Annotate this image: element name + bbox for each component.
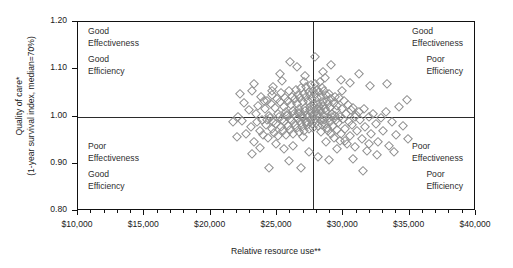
x-tick-mark-minor	[104, 210, 105, 213]
x-tick-mark-major	[143, 210, 144, 215]
x-tick-mark-minor	[183, 210, 184, 213]
quadrant-label-top-left-efficiency: Good Efficiency	[88, 54, 125, 77]
x-tick-label: $15,000	[128, 220, 159, 229]
scatter-point	[264, 163, 274, 173]
quadrant-tl-line3: Good	[88, 54, 125, 66]
x-tick-label: $30,000	[327, 220, 358, 229]
x-tick-mark-major	[276, 210, 277, 215]
x-tick-mark-minor	[329, 210, 330, 213]
x-axis-title: Relative resource use**	[77, 246, 475, 256]
y-axis-title-line1: Quality of care*	[14, 6, 26, 206]
x-tick-mark-minor	[196, 210, 197, 213]
y-tick-label: 1.00	[33, 111, 67, 120]
y-tick-label: 1.20	[33, 16, 67, 25]
scatter-point	[382, 79, 392, 89]
x-tick-mark-minor	[422, 210, 423, 213]
x-tick-mark-minor	[170, 210, 171, 213]
quadrant-tr-line2: Effectiveness	[412, 38, 463, 50]
plot-area: Good Effectiveness Good Efficiency Good …	[77, 21, 475, 210]
scatter-point	[402, 95, 412, 105]
scatter-point	[394, 102, 404, 112]
scatter-point	[371, 150, 381, 160]
scatter-point	[366, 129, 376, 139]
scatter-point	[324, 155, 334, 165]
quadrant-label-top-left-effectiveness: Good Effectiveness	[88, 26, 139, 49]
x-tick-mark-major	[342, 210, 343, 215]
scatter-point	[365, 81, 375, 91]
y-tick-label: 0.90	[33, 158, 67, 167]
x-tick-mark-minor	[90, 210, 91, 213]
quadrant-bl-line3: Good	[88, 169, 125, 181]
x-tick-mark-minor	[263, 210, 264, 213]
scatter-point	[298, 132, 308, 142]
x-tick-mark-minor	[249, 210, 250, 213]
x-tick-mark-minor	[356, 210, 357, 213]
x-tick-mark-minor	[303, 210, 304, 213]
x-tick-mark-major	[210, 210, 211, 215]
scatter-point	[296, 162, 306, 172]
x-tick-mark-minor	[236, 210, 237, 213]
x-tick-label: $25,000	[260, 220, 291, 229]
scatter-point	[348, 154, 358, 164]
scatter-chart-figure: Quality of care* (1-year survival index,…	[0, 0, 513, 268]
scatter-point	[358, 166, 368, 176]
quadrant-br-line1: Poor	[412, 141, 463, 153]
quadrant-tl-line4: Efficiency	[88, 66, 125, 78]
x-tick-mark-minor	[462, 210, 463, 213]
quadrant-tr-line1: Good	[412, 26, 463, 38]
x-tick-mark-minor	[157, 210, 158, 213]
x-tick-mark-major	[77, 210, 78, 215]
x-tick-mark-minor	[448, 210, 449, 213]
quadrant-br-line4: Efficiency	[426, 181, 463, 193]
x-tick-label: $10,000	[61, 220, 92, 229]
scatter-point	[237, 116, 247, 126]
scatter-point	[378, 126, 388, 136]
quadrant-label-top-right-efficiency: Poor Efficiency	[426, 54, 463, 77]
scatter-point	[288, 141, 298, 151]
x-tick-label: $20,000	[194, 220, 225, 229]
scatter-point	[387, 117, 397, 127]
x-tick-mark-minor	[316, 210, 317, 213]
quadrant-tr-line4: Efficiency	[426, 66, 463, 78]
y-tick-label: 1.10	[33, 63, 67, 72]
quadrant-bl-line1: Poor	[88, 141, 139, 153]
x-tick-mark-minor	[130, 210, 131, 213]
quadrant-label-bottom-left-efficiency: Good Efficiency	[88, 169, 125, 192]
quadrant-br-line2: Effectiveness	[412, 153, 463, 165]
scatter-point	[284, 156, 294, 166]
quadrant-bl-line4: Efficiency	[88, 181, 125, 193]
quadrant-tr-line3: Poor	[426, 54, 463, 66]
quadrant-label-top-right-effectiveness: Good Effectiveness	[412, 26, 463, 49]
quadrant-tl-line1: Good	[88, 26, 139, 38]
scatter-point	[398, 121, 408, 131]
x-tick-label: $40,000	[459, 220, 490, 229]
x-tick-mark-minor	[382, 210, 383, 213]
scatter-point	[373, 137, 383, 147]
quadrant-label-bottom-left-effectiveness: Poor Effectiveness	[88, 141, 139, 164]
quadrant-tl-line2: Effectiveness	[88, 38, 139, 50]
scatter-point	[345, 78, 355, 88]
quadrant-label-bottom-right-efficiency: Poor Efficiency	[426, 169, 463, 192]
scatter-point	[354, 69, 364, 79]
quadrant-bl-line2: Effectiveness	[88, 153, 139, 165]
x-tick-mark-minor	[435, 210, 436, 213]
x-tick-mark-minor	[395, 210, 396, 213]
x-tick-mark-major	[409, 210, 410, 215]
x-tick-mark-major	[475, 210, 476, 215]
quadrant-label-bottom-right-effectiveness: Poor Effectiveness	[412, 141, 463, 164]
y-tick-label: 0.80	[33, 205, 67, 214]
x-tick-label: $35,000	[393, 220, 424, 229]
x-tick-mark-minor	[289, 210, 290, 213]
scatter-point	[326, 60, 336, 70]
scatter-point	[313, 152, 323, 162]
scatter-point	[391, 130, 401, 140]
y-axis-title-line2: (1-year survival index, median=70%)	[26, 6, 38, 206]
x-tick-mark-minor	[223, 210, 224, 213]
x-tick-mark-minor	[369, 210, 370, 213]
x-tick-mark-minor	[117, 210, 118, 213]
quadrant-br-line3: Poor	[426, 169, 463, 181]
scatter-point	[247, 149, 257, 159]
